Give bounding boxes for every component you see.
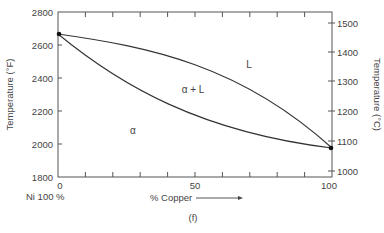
svg-text:1500: 1500	[337, 18, 358, 29]
svg-text:1400: 1400	[337, 47, 358, 58]
region-label-alpha-liquid: α + L	[182, 84, 205, 95]
y-axis-title-right: Temperature (°C)	[372, 58, 383, 131]
svg-text:1100: 1100	[337, 136, 357, 147]
x-tick-labels: 0 50 100	[57, 180, 337, 191]
cu-melting-point	[329, 146, 334, 151]
svg-text:2600: 2600	[32, 40, 53, 51]
svg-text:2800: 2800	[32, 7, 53, 18]
region-label-liquid: L	[246, 59, 252, 70]
y-axis-title-left: Temperature (°F)	[4, 59, 15, 131]
svg-text:1000: 1000	[337, 166, 358, 177]
arrow-right-icon	[196, 196, 243, 200]
svg-text:1800: 1800	[32, 172, 53, 183]
ni-melting-point	[57, 32, 62, 37]
svg-text:50: 50	[190, 180, 201, 191]
x-axis-prefix: Ni 100 %	[26, 191, 65, 202]
svg-text:2000: 2000	[32, 139, 53, 150]
figure-subtitle: (f)	[189, 212, 198, 223]
svg-text:2200: 2200	[32, 106, 53, 117]
svg-text:0: 0	[57, 180, 62, 191]
svg-text:1200: 1200	[337, 106, 358, 117]
phase-diagram: 2800 2600 2400 2200 2000 1800 1500 1400 …	[0, 0, 384, 233]
svg-text:1300: 1300	[337, 76, 358, 87]
x-axis-title: % Copper	[150, 192, 192, 203]
y-ticks-left	[58, 45, 62, 144]
svg-text:100: 100	[321, 180, 337, 191]
region-label-alpha: α	[130, 125, 136, 136]
y-tick-labels-right: 1500 1400 1300 1200 1100 1000	[337, 18, 358, 177]
y-tick-labels-left: 2800 2600 2400 2200 2000 1800	[32, 7, 53, 183]
svg-text:2400: 2400	[32, 73, 53, 84]
